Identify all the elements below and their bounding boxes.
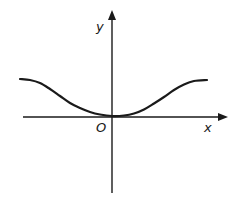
x-axis-label: x: [203, 120, 212, 135]
origin-label: O: [96, 120, 106, 135]
function-curve: [20, 79, 207, 116]
y-axis-label: y: [95, 19, 104, 34]
function-graph-diagram: y x O: [0, 0, 241, 205]
